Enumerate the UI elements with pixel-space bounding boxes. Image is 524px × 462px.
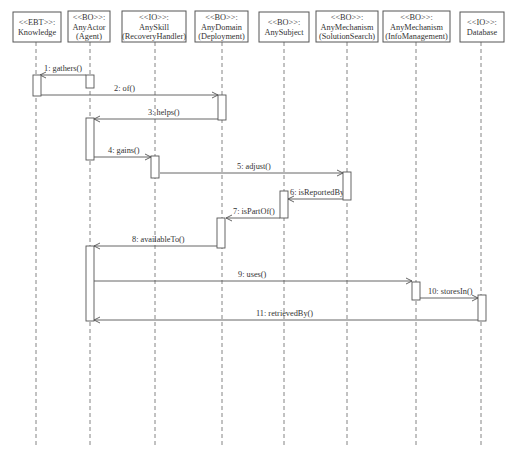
object-database: <<IO>>:Database (460, 12, 504, 42)
activation-bar-infomanagement (412, 282, 420, 300)
activation-bar-anyactor (86, 75, 94, 88)
object-anyactor: <<BO>>:AnyActor(Agent) (68, 11, 110, 42)
object-stereotype: <<BO>>: (73, 13, 106, 22)
object-infomanagement: <<BO>>:AnyMechanism(InfoManagement) (383, 11, 450, 42)
object-stereotype: <<IO>>: (467, 18, 497, 27)
message-label: 2: of() (114, 84, 135, 93)
activation-bar-anyactor (86, 246, 94, 321)
message-8: 8: availableTo() (94, 235, 217, 249)
message-9: 9: uses() (94, 270, 412, 284)
activation-bar-database (478, 295, 486, 321)
object-stereotype: <<IO>>: (139, 13, 169, 22)
object-role: (SolutionSearch) (319, 32, 375, 41)
message-6: 6: isReportedBy() (288, 188, 350, 202)
object-name: AnyMechanism (390, 23, 444, 32)
message-3: 3: helps() (94, 108, 218, 122)
message-label: 8: availableTo() (132, 235, 185, 244)
message-4: 4: gains() (94, 146, 151, 160)
message-label: 6: isReportedBy() (290, 188, 350, 197)
message-11: 11: retrievedBy() (94, 309, 478, 323)
object-solutionsearch: <<BO>>:AnyMechanism(SolutionSearch) (316, 11, 378, 42)
sequence-diagram: <<EBT>>:Knowledge<<BO>>:AnyActor(Agent)<… (0, 0, 524, 462)
object-stereotype: <<EBT>>: (19, 18, 56, 27)
object-role: (RecoveryHandler) (122, 32, 186, 41)
object-name: AnyDomain (201, 23, 243, 32)
message-label: 5: adjust() (237, 162, 271, 171)
message-label: 9: uses() (238, 270, 267, 279)
object-anysubject: <<BO>>:AnySubject (259, 12, 309, 42)
message-10: 10: storesIn() (420, 287, 478, 301)
object-name: AnyMechanism (321, 23, 375, 32)
object-stereotype: <<BO>>: (205, 13, 238, 22)
object-knowledge: <<EBT>>:Knowledge (13, 12, 61, 42)
message-5: 5: adjust() (160, 162, 343, 176)
message-label: 11: retrievedBy() (256, 309, 313, 318)
activation-bar-solutionsearch (343, 172, 351, 200)
object-role: (Deployment) (198, 32, 245, 41)
message-1: 1: gathers() (40, 64, 86, 78)
activation-bar-anyskill (151, 156, 159, 178)
message-label: 7: isPartOf() (233, 207, 275, 216)
activation-bar-knowledge (33, 75, 41, 96)
object-name: AnyActor (72, 23, 105, 32)
message-7: 7: isPartOf() (226, 207, 280, 221)
object-name: AnySkill (139, 23, 170, 32)
activation-bar-anydomain (217, 218, 225, 248)
message-label: 1: gathers() (44, 64, 82, 73)
object-anydomain: <<BO>>:AnyDomain(Deployment) (195, 11, 248, 42)
object-boxes: <<EBT>>:Knowledge<<BO>>:AnyActor(Agent)<… (13, 11, 504, 42)
object-role: (Agent) (76, 32, 102, 41)
object-name: AnySubject (264, 28, 304, 37)
message-label: 4: gains() (108, 146, 140, 155)
object-role: (InfoManagement) (385, 32, 448, 41)
message-label: 10: storesIn() (428, 287, 473, 296)
message-2: 2: of() (40, 84, 218, 98)
activation-bar-anydomain (218, 95, 226, 120)
object-name: Knowledge (18, 28, 57, 37)
message-label: 3: helps() (148, 108, 180, 117)
activation-bar-anyactor (86, 118, 94, 160)
activation-bar-anysubject (280, 191, 288, 218)
object-stereotype: <<BO>>: (331, 13, 364, 22)
lifelines (36, 42, 481, 446)
object-anyskill: <<IO>>:AnySkill(RecoveryHandler) (122, 11, 186, 42)
object-stereotype: <<BO>>: (268, 18, 301, 27)
object-name: Database (467, 28, 498, 37)
activation-bars (33, 75, 486, 321)
object-stereotype: <<BO>>: (400, 13, 433, 22)
